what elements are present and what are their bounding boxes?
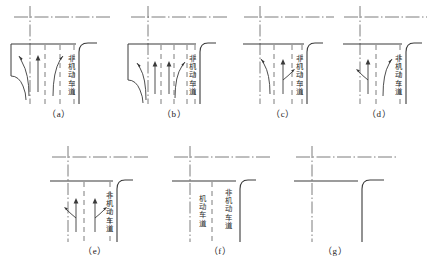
arrow-left-through (356, 59, 370, 94)
panel-c-diagram: 非机动车道 (230, 0, 336, 122)
edge-label-nonmotor: 非机动车道 (188, 54, 197, 96)
panel-e: 非机动车道 （e） (30, 140, 160, 277)
edge-label-motor: 机动车道 (198, 194, 207, 228)
edge-label-nonmotor: 非机动车道 (224, 188, 233, 230)
curb-corner (200, 43, 216, 104)
arrow-through-right (281, 59, 295, 94)
panel-g: （g） (280, 140, 428, 277)
panel-g-diagram (280, 140, 428, 260)
curb-corner (362, 180, 384, 242)
arrow-left-turn (128, 63, 146, 103)
panel-c: 非机动车道 （c） (230, 0, 336, 138)
arrow-right-turn (53, 56, 63, 96)
edge-label-nonmotor: 非机动车道 (394, 54, 403, 96)
arrow-through (167, 61, 172, 94)
arrow-right-turn (175, 62, 185, 98)
arrow-left-through (64, 198, 78, 232)
panel-f-diagram: 机动车道 非机动车道 (158, 140, 282, 260)
curb-corner (307, 43, 323, 104)
panel-e-diagram: 非机动车道 (30, 140, 160, 260)
panel-d-diagram: 非机动车道 (330, 0, 428, 122)
arrow-left-turn (261, 59, 270, 94)
arrow-through (153, 61, 158, 94)
arrow-right-turn (383, 59, 392, 96)
caption-g: （g） (280, 244, 390, 257)
curb-corner (117, 180, 133, 242)
caption-c: （c） (230, 107, 336, 120)
caption-b: （b） (113, 107, 235, 120)
caption-a: （a） (0, 107, 118, 120)
arrow-left-turn (11, 56, 29, 100)
curb-corner (406, 43, 422, 104)
panel-f: 机动车道 非机动车道 （f） (158, 140, 282, 277)
edge-label-nonmotor: 非机动车道 (295, 54, 304, 96)
edge-label-nonmotor: 非机动车道 (67, 54, 76, 96)
panel-d: 非机动车道 （d） (330, 0, 428, 138)
panel-a-diagram: 非机动车道 (0, 0, 118, 122)
edge-label-nonmotor: 非机动车道 (105, 191, 114, 233)
panel-b-diagram: 非机动车道 (113, 0, 235, 122)
curb-corner (79, 43, 97, 104)
caption-e: （e） (30, 244, 160, 257)
panel-a: 非机动车道 （a） (0, 0, 118, 138)
curb-corner (240, 180, 256, 242)
caption-f: （f） (158, 244, 282, 257)
caption-d: （d） (330, 107, 428, 120)
panel-b: 非机动车道 （b） (113, 0, 235, 138)
arrow-through (36, 55, 41, 92)
